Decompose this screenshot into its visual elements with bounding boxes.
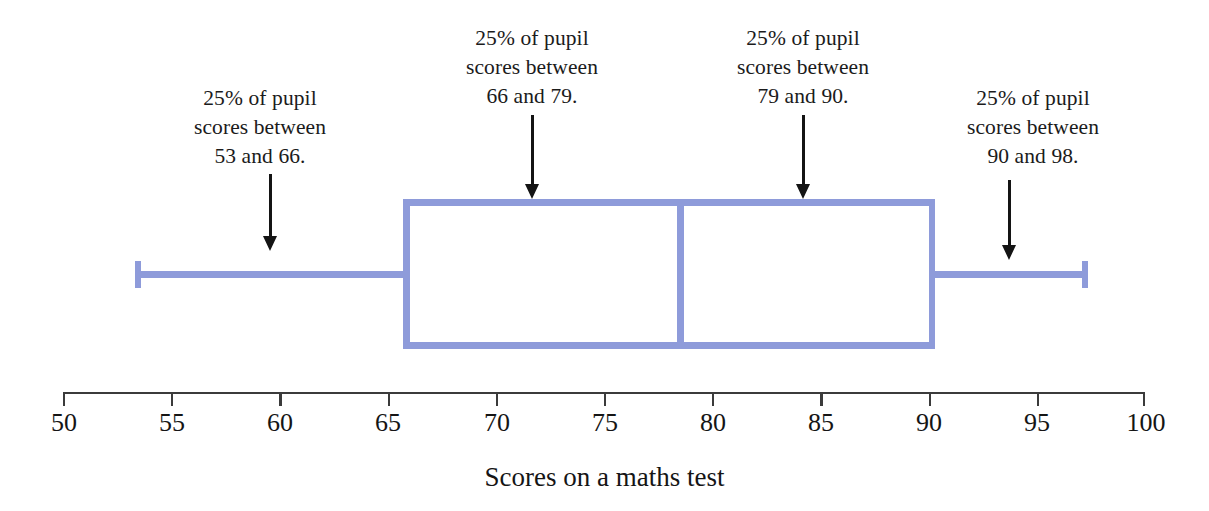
axis-title: Scores on a maths test [0,462,1209,493]
axis-label-75: 75 [592,408,618,438]
axis-tick-55 [171,392,173,406]
axis-label-50: 50 [51,408,77,438]
axis-label-60: 60 [267,408,293,438]
axis-tick-80 [712,392,714,406]
axis-tick-70 [496,392,498,406]
axis-label-90: 90 [916,408,942,438]
x-axis: 50 55 60 65 70 75 80 85 90 95 100 Scores… [0,0,1209,511]
axis-label-65: 65 [375,408,401,438]
axis-tick-100 [1143,392,1145,406]
axis-label-100: 100 [1127,408,1166,438]
axis-label-80: 80 [700,408,726,438]
axis-tick-65 [388,392,390,406]
axis-label-95: 95 [1024,408,1050,438]
axis-tick-75 [604,392,606,406]
axis-label-85: 85 [808,408,834,438]
axis-tick-85 [820,392,822,406]
axis-tick-50 [63,392,65,406]
axis-label-55: 55 [159,408,185,438]
axis-label-70: 70 [484,408,510,438]
axis-tick-60 [279,392,281,406]
axis-tick-90 [929,392,931,406]
axis-tick-95 [1037,392,1039,406]
box-plot-figure: 25% of pupil scores between 53 and 66. 2… [0,0,1209,511]
